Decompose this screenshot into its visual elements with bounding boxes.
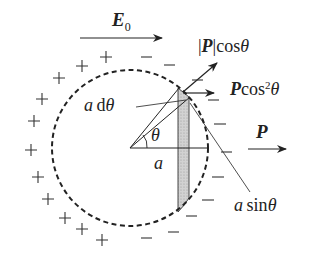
p-label: P — [256, 122, 268, 141]
shaded-strip — [178, 88, 189, 212]
a-sin-label: a sinθ — [234, 196, 276, 214]
p-cos2-label: Pcos2θ — [230, 80, 279, 98]
theta-label: θ — [151, 126, 160, 144]
p-abs-cos-arrow — [183, 63, 217, 92]
p-abs-cos-label: |P|cosθ — [198, 37, 249, 55]
positive-charges — [20, 51, 112, 246]
field-label: E0 — [112, 10, 131, 33]
a-dtheta-label: a dθ — [84, 96, 114, 114]
radius-a-label: a — [154, 154, 163, 172]
